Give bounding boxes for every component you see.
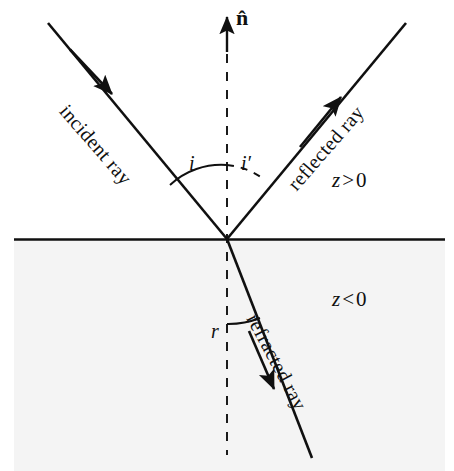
angle-of-reflection-label: i′ xyxy=(241,152,251,175)
angle-of-refraction-label: r xyxy=(211,320,219,343)
ray-diagram-figure: n̂ i i′ r incident ray reflected ray ref… xyxy=(0,0,454,471)
lower-region-relation: < xyxy=(340,287,356,311)
normal-vector-label: n̂ xyxy=(236,5,248,31)
upper-region-variable: z xyxy=(332,168,340,192)
ray-diagram-canvas xyxy=(0,0,454,471)
reflected-ray-line xyxy=(227,23,406,239)
lower-medium-region xyxy=(14,240,445,471)
upper-region-value: 0 xyxy=(356,168,367,192)
lower-region-variable: z xyxy=(332,287,340,311)
upper-region-label: z>0 xyxy=(332,168,367,193)
lower-region-label: z<0 xyxy=(332,287,367,312)
lower-region-value: 0 xyxy=(356,287,367,311)
incident-ray-arrow xyxy=(70,50,112,95)
upper-region-relation: > xyxy=(340,168,356,192)
angle-of-incidence-label: i xyxy=(189,152,195,175)
